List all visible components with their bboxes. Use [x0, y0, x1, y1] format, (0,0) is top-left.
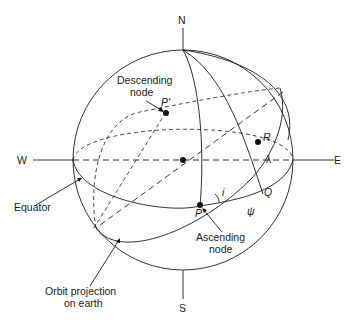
orbit-diagram: N S W E P' P R Q i λ ψ Descending node A… — [0, 0, 350, 329]
ascending-label-1: Ascending — [196, 231, 245, 243]
inclination-arc — [215, 194, 219, 202]
orbit-label-1: Orbit projection — [45, 285, 116, 297]
descending-label-2: node — [130, 86, 154, 98]
inclination-label: i — [222, 186, 225, 198]
center-point — [180, 157, 186, 163]
descending-node-point — [163, 110, 169, 116]
east-label: E — [334, 154, 341, 166]
north-label: N — [178, 14, 186, 26]
satellite-label: R — [263, 131, 271, 143]
equator-label: Equator — [14, 201, 51, 213]
q-label: Q — [264, 186, 272, 198]
equator-back — [73, 129, 293, 160]
orbit-arrow — [90, 240, 119, 286]
ascending-node-label: P — [195, 207, 202, 219]
south-label: S — [179, 302, 186, 314]
meridian-satellite — [183, 50, 263, 194]
orbit-label-2: on earth — [64, 297, 103, 309]
meridian-ascending — [183, 50, 202, 206]
psi-label: ψ — [247, 205, 255, 217]
satellite-point — [255, 139, 261, 145]
descending-label-1: Descending — [117, 74, 173, 86]
outer-meridian — [183, 50, 290, 140]
longitude-label: λ — [266, 153, 272, 165]
ascending-arrow — [203, 209, 222, 232]
descending-node-label: P' — [161, 96, 171, 108]
orbit-front — [96, 88, 283, 242]
ascending-label-2: node — [209, 243, 233, 255]
west-label: W — [17, 154, 27, 166]
node-line — [94, 112, 166, 228]
